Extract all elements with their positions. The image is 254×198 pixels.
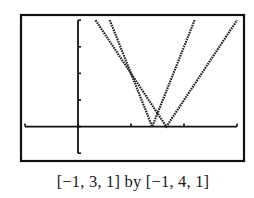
screen-frame [21,15,244,161]
axes [25,20,237,153]
curve-1 [110,20,195,126]
window-caption: [−1, 3, 1] by [−1, 4, 1] [0,172,254,192]
calculator-graph-screen [0,0,254,198]
graph-curves [96,20,237,126]
curve-2 [96,20,237,126]
